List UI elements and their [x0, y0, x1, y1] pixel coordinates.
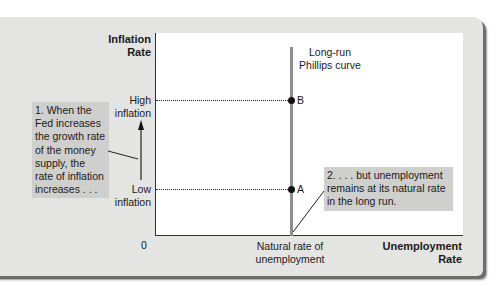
annotation-2-leader: [293, 191, 324, 232]
connector-lines: [0, 0, 499, 286]
arrow-head-icon: [138, 120, 144, 130]
annotation-1-leader: [108, 151, 138, 159]
